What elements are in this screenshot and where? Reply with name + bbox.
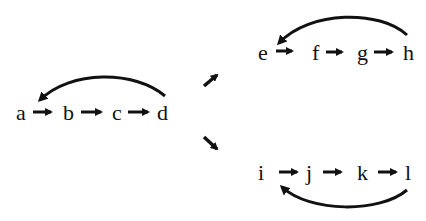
node-l: l xyxy=(405,162,411,184)
node-j: j xyxy=(306,162,312,184)
source-cycle-arrow xyxy=(40,77,165,100)
diagram-canvas: a b c d e f g h i j k l xyxy=(0,0,426,221)
node-f: f xyxy=(312,42,319,64)
lower-cycle-arrow xyxy=(282,187,407,207)
node-h: h xyxy=(403,42,414,64)
upper-cycle-arrow xyxy=(279,17,407,43)
node-b: b xyxy=(63,102,74,124)
node-k: k xyxy=(357,162,368,184)
node-a: a xyxy=(16,102,26,124)
upper-chain-arrows xyxy=(276,51,392,52)
node-c: c xyxy=(112,102,122,124)
node-d: d xyxy=(157,102,168,124)
node-i: i xyxy=(258,162,264,184)
node-g: g xyxy=(357,42,368,64)
branch-arrow-down xyxy=(204,137,217,149)
branch-arrow-up xyxy=(204,75,217,86)
node-e: e xyxy=(258,42,268,64)
